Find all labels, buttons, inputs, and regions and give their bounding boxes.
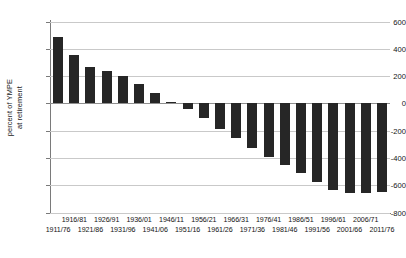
bar (247, 103, 257, 148)
x-tick-label: 1926/91 (94, 216, 119, 224)
bar (312, 103, 322, 182)
bar (85, 67, 95, 103)
x-tick-label: 1916/81 (62, 216, 87, 224)
x-tick-label: 1936/01 (126, 216, 151, 224)
y-axis-title-line1: percent of YMPE (5, 79, 14, 136)
bar-chart: percent of YMPE at retirement 6004002000… (0, 0, 406, 258)
bar (345, 103, 355, 193)
bar (150, 93, 160, 103)
x-tick-label: 1996/61 (321, 216, 346, 224)
bar-series (50, 22, 390, 213)
plot-area (50, 22, 390, 213)
bar (215, 103, 225, 128)
x-tick-label: 2006/71 (353, 216, 378, 224)
x-tick-label: 1956/21 (191, 216, 216, 224)
bar (134, 84, 144, 103)
x-tick-label: 1946/11 (159, 216, 184, 224)
y-axis-title-line2: at retirement (15, 79, 25, 136)
bar (377, 103, 387, 192)
x-tick-label: 1966/31 (224, 216, 249, 224)
x-tick-label: 2001/66 (337, 226, 362, 234)
bar (361, 103, 371, 192)
x-tick-label: 1961/26 (207, 226, 232, 234)
bar (166, 102, 176, 103)
bar (69, 55, 79, 103)
bar (102, 71, 112, 103)
x-tick-label: 1951/16 (175, 226, 200, 234)
x-axis-labels: 1911/761916/811921/861926/911931/961936/… (50, 214, 391, 254)
x-tick-label: 1931/96 (110, 226, 135, 234)
bar (199, 103, 209, 118)
x-tick-label: 1971/36 (240, 226, 265, 234)
x-tick-label: 2011/76 (370, 226, 395, 234)
bar (183, 103, 193, 109)
bar (328, 103, 338, 190)
bar (264, 103, 274, 157)
x-tick-label: 1991/56 (304, 226, 329, 234)
bar (118, 76, 128, 103)
x-tick-label: 1941/06 (143, 226, 168, 234)
x-tick-label: 1921/86 (78, 226, 103, 234)
bar (53, 37, 63, 104)
bar (231, 103, 241, 138)
x-tick-label: 1981/46 (272, 226, 297, 234)
x-tick-label: 1976/41 (256, 216, 281, 224)
y-axis-title: percent of YMPE at retirement (2, 0, 28, 215)
x-tick-label: 1911/76 (46, 226, 71, 234)
bar (280, 103, 290, 165)
x-tick-label: 1986/51 (288, 216, 313, 224)
bar (296, 103, 306, 173)
